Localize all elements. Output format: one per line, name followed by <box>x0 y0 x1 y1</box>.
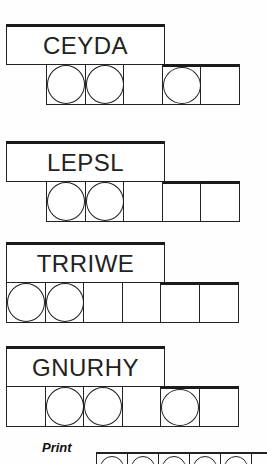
scrambled-word-box: TRRIWE <box>6 242 165 283</box>
letter-cell[interactable] <box>123 181 163 222</box>
letter-cell[interactable] <box>199 282 239 323</box>
letter-cell[interactable] <box>200 181 240 222</box>
letter-cell[interactable] <box>199 386 239 427</box>
answer-cells <box>46 181 240 222</box>
letter-cell[interactable] <box>46 181 86 222</box>
letter-cell[interactable] <box>122 282 162 323</box>
answer-cells <box>46 64 240 105</box>
scrambled-word: GNURHY <box>32 354 139 382</box>
print-label: Print <box>42 440 72 455</box>
answer-circle-cell[interactable] <box>190 454 221 464</box>
letter-cell[interactable] <box>85 181 125 222</box>
letter-cell[interactable] <box>160 386 200 427</box>
letter-cell[interactable] <box>6 282 46 323</box>
circle-marker-icon <box>47 65 85 104</box>
final-answer-row[interactable] <box>96 452 267 464</box>
letter-cell[interactable] <box>200 64 240 105</box>
letter-cell[interactable] <box>123 64 163 105</box>
answer-cells <box>6 386 239 427</box>
letter-cell[interactable] <box>162 64 202 105</box>
circle-marker-icon <box>46 387 84 426</box>
scrambled-word: CEYDA <box>43 32 128 60</box>
circle-marker-icon <box>163 67 201 104</box>
answer-cells <box>6 282 239 323</box>
circle-marker-icon <box>161 389 199 426</box>
answer-circle-cell[interactable] <box>221 454 252 464</box>
answer-circle-cell[interactable] <box>128 454 159 464</box>
scrambled-word-box: CEYDA <box>6 24 165 65</box>
letter-cell[interactable] <box>85 64 125 105</box>
letter-cell[interactable] <box>46 64 86 105</box>
letter-cell[interactable] <box>83 282 123 323</box>
letter-cell[interactable] <box>162 181 202 222</box>
letter-cell[interactable] <box>45 386 85 427</box>
circle-marker-icon <box>86 65 124 104</box>
circle-marker-icon <box>7 283 45 322</box>
circle-marker-icon <box>47 182 85 221</box>
answer-circle-cell[interactable] <box>159 454 190 464</box>
scrambled-word: TRRIWE <box>37 250 135 278</box>
circle-marker-icon <box>84 387 122 426</box>
letter-cell[interactable] <box>83 386 123 427</box>
letter-cell[interactable] <box>6 386 46 427</box>
scrambled-word-box: GNURHY <box>6 346 165 387</box>
letter-cell[interactable] <box>45 282 85 323</box>
letter-cell[interactable] <box>160 282 200 323</box>
letter-cell[interactable] <box>122 386 162 427</box>
scrambled-word: LEPSL <box>47 149 124 177</box>
answer-circle-cell[interactable] <box>97 454 128 464</box>
circle-marker-icon <box>86 182 124 221</box>
scrambled-word-box: LEPSL <box>6 141 165 182</box>
circle-marker-icon <box>46 283 84 322</box>
